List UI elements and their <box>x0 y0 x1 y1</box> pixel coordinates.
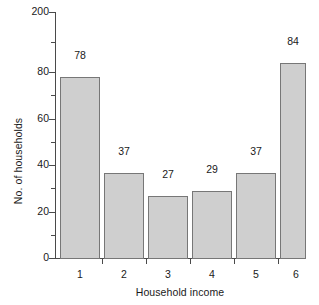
bar-5 <box>236 173 276 259</box>
x-axis-title: Household income <box>55 286 305 298</box>
y-tick-40: 40 <box>0 165 49 166</box>
bar-2 <box>104 173 144 259</box>
y-tick-label: 20 <box>5 205 49 217</box>
y-tick-mark <box>49 72 55 73</box>
bar-chart: No. of households 200 80 60 40 20 0 78 3… <box>0 0 319 305</box>
y-tick-label: 0 <box>5 251 49 263</box>
y-minor-tick <box>51 142 55 143</box>
y-tick-mark <box>49 119 55 120</box>
x-tick-label-3: 3 <box>165 268 171 280</box>
bar-value-3: 27 <box>162 168 174 180</box>
bar-value-1: 78 <box>74 49 86 61</box>
bar-value-6: 84 <box>287 35 299 47</box>
x-tick-label-5: 5 <box>253 268 259 280</box>
x-tick-mark <box>278 259 279 264</box>
y-tick-label: 80 <box>5 65 49 77</box>
x-tick-label-2: 2 <box>121 268 127 280</box>
x-tick-mark <box>234 259 235 264</box>
y-minor-tick <box>51 188 55 189</box>
y-minor-tick <box>51 95 55 96</box>
bar-4 <box>192 191 232 259</box>
x-tick-label-6: 6 <box>293 268 299 280</box>
y-tick-label: 200 <box>5 5 49 17</box>
y-tick-200: 200 <box>0 12 49 13</box>
bar-value-5: 37 <box>250 145 262 157</box>
y-tick-20: 20 <box>0 212 49 213</box>
y-tick-mark <box>49 212 55 213</box>
x-tick-mark <box>190 259 191 264</box>
y-minor-tick <box>51 235 55 236</box>
y-tick-mark <box>49 165 55 166</box>
y-tick-80: 80 <box>0 72 49 73</box>
x-tick-mark <box>102 259 103 264</box>
y-tick-60: 60 <box>0 119 49 120</box>
bar-1 <box>60 77 100 259</box>
y-minor-tick <box>51 42 55 43</box>
x-tick-label-4: 4 <box>209 268 215 280</box>
y-tick-mark <box>49 258 55 259</box>
y-axis-line <box>55 12 56 259</box>
y-tick-label: 60 <box>5 112 49 124</box>
y-tick-mark <box>49 12 55 13</box>
bar-value-4: 29 <box>206 163 218 175</box>
y-tick-label: 40 <box>5 158 49 170</box>
bar-value-2: 37 <box>118 145 130 157</box>
x-tick-mark <box>146 259 147 264</box>
y-tick-0: 0 <box>0 258 49 259</box>
x-tick-label-1: 1 <box>77 268 83 280</box>
bar-3 <box>148 196 188 259</box>
bar-6 <box>280 63 306 259</box>
